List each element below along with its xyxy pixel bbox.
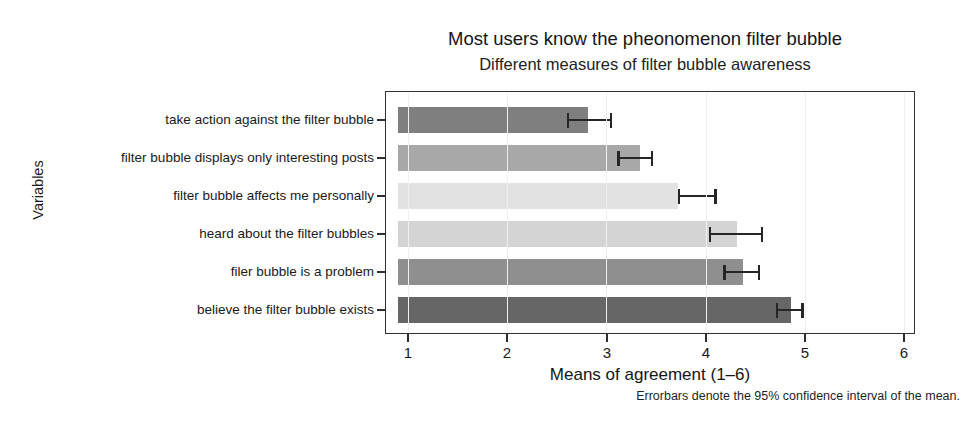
x-tick-mark-4 [804, 334, 806, 342]
plot-area [386, 92, 914, 333]
plot-panel [385, 91, 915, 334]
error-bar-cap-high [758, 265, 760, 280]
bar [398, 221, 737, 247]
y-tick-label-4: filer bubble is a problem [231, 264, 374, 280]
x-tick-mark-3 [705, 334, 707, 342]
error-bar-cap-low [723, 265, 725, 280]
y-tick-label-1: filter bubble displays only interesting … [121, 150, 374, 166]
y-axis-title: Variables [30, 130, 46, 250]
x-tick-label-1: 2 [487, 344, 527, 361]
bar-row [386, 139, 914, 177]
bar [398, 297, 791, 323]
x-tick-label-3: 4 [686, 344, 726, 361]
chart-title: Most users know the pheonomenon filter b… [385, 28, 905, 50]
error-bar-cap-low [617, 151, 619, 166]
chart-subtitle: Different measures of filter bubble awar… [385, 54, 905, 74]
error-bar-cap-low [567, 113, 569, 128]
x-axis-title: Means of agreement (1–6) [385, 365, 915, 385]
error-bar-line [617, 157, 653, 159]
y-tick-label-5: believe the filter bubble exists [197, 302, 374, 318]
error-bar-line [678, 195, 717, 197]
y-tick-mark-5 [377, 309, 385, 311]
bar-row [386, 101, 914, 139]
x-tick-mark-1 [506, 334, 508, 342]
error-bar-line [723, 271, 760, 273]
gridline-vertical [706, 92, 707, 333]
gridline-vertical [805, 92, 806, 333]
error-bar-cap-high [651, 151, 653, 166]
bar-row [386, 291, 914, 329]
bar-row [386, 215, 914, 253]
error-bar-cap-low [709, 227, 711, 242]
y-tick-label-3: heard about the filter bubbles [199, 226, 374, 242]
y-tick-mark-4 [377, 271, 385, 273]
error-bar-cap-high [761, 227, 763, 242]
x-tick-label-4: 5 [785, 344, 825, 361]
error-bar-cap-low [678, 189, 680, 204]
chart-caption: Errorbars denote the 95% confidence inte… [420, 389, 960, 403]
error-bar-cap-high [610, 113, 612, 128]
gridline-vertical [507, 92, 508, 333]
bar [398, 183, 678, 209]
x-tick-label-5: 6 [884, 344, 924, 361]
gridline-vertical [606, 92, 607, 333]
error-bar-cap-low [776, 303, 778, 318]
x-tick-mark-2 [606, 334, 608, 342]
bar [398, 107, 588, 133]
error-bar-line [709, 233, 764, 235]
y-tick-mark-1 [377, 157, 385, 159]
bar-row [386, 177, 914, 215]
bar [398, 259, 743, 285]
gridline-vertical [904, 92, 905, 333]
y-tick-mark-3 [377, 233, 385, 235]
bar [398, 145, 640, 171]
x-tick-mark-5 [903, 334, 905, 342]
x-tick-mark-0 [407, 334, 409, 342]
y-tick-label-2: filter bubble affects me personally [173, 188, 374, 204]
y-tick-mark-2 [377, 195, 385, 197]
error-bar-cap-high [801, 303, 803, 318]
x-tick-label-0: 1 [388, 344, 428, 361]
chart-figure: Most users know the pheonomenon filter b… [0, 0, 969, 428]
y-tick-mark-0 [377, 119, 385, 121]
error-bar-line [776, 309, 804, 311]
gridline-vertical [408, 92, 409, 333]
y-tick-label-0: take action against the filter bubble [165, 112, 374, 128]
bar-row [386, 253, 914, 291]
error-bar-cap-high [714, 189, 716, 204]
x-tick-label-2: 3 [587, 344, 627, 361]
